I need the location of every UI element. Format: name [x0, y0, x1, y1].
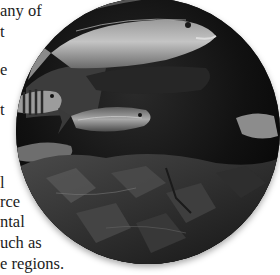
text-line: t — [0, 100, 5, 120]
text-line: e — [0, 60, 7, 80]
text-line: rce — [0, 192, 20, 212]
text-line: uch as — [0, 233, 42, 253]
text-line: l — [0, 173, 5, 193]
fish-photo-image — [16, 0, 280, 264]
circular-fish-photo — [16, 0, 280, 264]
text-line: ntal — [0, 212, 25, 232]
text-line: t — [0, 22, 5, 42]
text-line: any of — [0, 1, 42, 21]
text-line: e regions. — [0, 254, 64, 274]
